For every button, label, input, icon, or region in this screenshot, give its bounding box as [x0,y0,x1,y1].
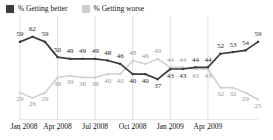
data-point-marker [44,92,46,94]
data-value-label: 43 [179,73,186,80]
data-value-label: 43 [167,73,174,80]
data-value-label: 26 [29,101,36,108]
legend-item-getting-worse: % Getting worse [82,5,144,13]
data-value-label: 32 [217,91,224,98]
data-point-marker [232,87,234,89]
data-point-marker [44,41,46,43]
data-value-label: 49 [67,48,74,55]
data-point-marker [56,56,58,58]
data-value-label: 44 [167,57,174,64]
data-point-marker [31,36,33,38]
data-point-marker [144,63,146,65]
data-point-marker [119,63,121,65]
data-value-label: 59 [42,31,49,38]
data-point-marker [244,92,246,94]
data-value-label: 39 [67,79,74,86]
data-value-label: 49 [79,48,86,55]
data-point-marker [107,59,109,61]
data-value-label: 40 [129,78,136,85]
data-point-marker [144,73,146,75]
data-point-marker [244,49,246,51]
data-value-label: 44 [192,57,199,64]
data-point-marker [194,66,196,68]
data-value-label: 25 [255,103,262,110]
data-value-label: 53 [229,42,236,49]
legend-item-getting-better: % Getting better [6,5,68,13]
data-point-marker [219,53,221,55]
x-tick-label: Jan 2009 [157,122,184,131]
data-point-marker [207,66,209,68]
data-value-label: 32 [229,91,236,98]
data-point-marker [82,76,84,78]
data-point-marker [157,78,159,80]
legend-swatch-icon-better [6,5,14,13]
data-value-label: 48 [129,50,136,57]
data-point-marker [69,58,71,60]
data-value-label: 40 [104,78,111,85]
data-value-label: 48 [104,50,111,57]
chart-legend: % Getting better % Getting worse [6,2,144,16]
data-value-label: 50 [54,47,61,54]
data-value-label: 29 [242,96,249,103]
data-point-marker [94,76,96,78]
data-value-label: 52 [217,43,224,50]
data-point-marker [219,87,221,89]
data-point-marker [94,58,96,60]
data-point-marker [257,41,259,43]
data-point-marker [57,76,59,78]
x-tick-label: Jul 2008 [82,122,108,131]
data-value-label: 49 [92,48,99,55]
data-point-marker [82,58,84,60]
x-tick-label: Apr 2008 [43,122,72,131]
data-value-label: 43 [192,73,199,80]
data-point-marker [257,99,259,101]
data-value-label: 40 [117,78,124,85]
data-point-marker [119,73,121,75]
data-value-label: 44 [179,57,186,64]
data-value-label: 54 [242,40,249,47]
data-point-marker [132,73,134,75]
plot-area: 2926293839383840404846494444434332322925… [0,16,273,120]
x-axis: Jan 2008Apr 2008Jul 2008Oct 2008Jan 2009… [0,120,273,140]
data-value-label: 29 [17,96,24,103]
x-tick-label: Jan 2008 [11,122,38,131]
data-point-marker [19,92,21,94]
data-value-label: 59 [17,31,24,38]
data-point-marker [232,51,234,53]
data-point-marker [69,75,71,77]
data-value-label: 59 [255,31,262,38]
data-point-marker [169,68,171,70]
data-value-label: 37 [154,83,161,90]
legend-label-worse: % Getting worse [94,5,144,13]
data-point-marker [132,60,134,62]
legend-label-better: % Getting better [18,5,68,13]
data-value-label: 49 [154,48,161,55]
data-point-marker [32,97,34,99]
data-value-label: 46 [117,53,124,60]
data-value-label: 46 [142,53,149,60]
data-point-marker [107,73,109,75]
data-value-label: 62 [29,26,36,33]
data-point-marker [19,41,21,43]
data-point-marker [182,68,184,70]
gridlines [20,16,258,120]
data-value-label: 38 [54,81,61,88]
chart-container: % Getting better % Getting worse 2926293… [0,0,273,140]
data-value-label: 38 [92,81,99,88]
legend-swatch-icon-worse [82,5,90,13]
data-value-label: 43 [204,73,211,80]
x-tick-label: Apr 2009 [194,122,223,131]
data-value-label: 29 [42,96,49,103]
data-value-label: 38 [79,81,86,88]
data-value-label: 44 [204,57,211,64]
data-point-marker [157,58,159,60]
x-tick-label: Oct 2008 [119,122,147,131]
data-value-label: 40 [142,78,149,85]
